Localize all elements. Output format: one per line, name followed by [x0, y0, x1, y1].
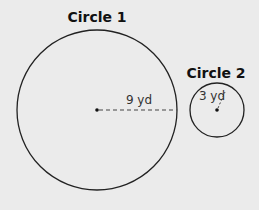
circle-2-center-point: [215, 108, 219, 112]
circle-2-radius-label: 3 yd: [199, 89, 225, 103]
circle-1-radius-label: 9 yd: [126, 93, 152, 107]
circle-1-center-point: [95, 108, 99, 112]
circle-1-group: Circle 1 9 yd: [17, 9, 177, 190]
circle-1-title: Circle 1: [67, 9, 126, 25]
circle-2-group: Circle 2 3 yd: [186, 65, 245, 137]
circle-2-title: Circle 2: [186, 65, 245, 81]
circles-diagram: Circle 1 9 yd Circle 2 3 yd: [0, 0, 259, 210]
